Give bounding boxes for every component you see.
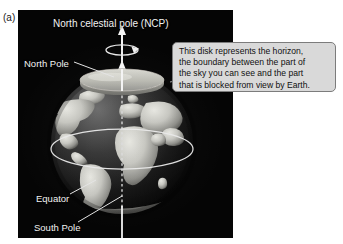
callout-line-4: that is blocked from view by Earth. — [179, 80, 330, 91]
label-equator: Equator — [36, 193, 69, 204]
callout-line-2: the boundary between the part of — [179, 57, 330, 68]
callout-line-1: This disk represents the horizon, — [179, 46, 330, 57]
horizon-callout-box: This disk represents the horizon, the bo… — [172, 42, 336, 92]
horizon-disk — [80, 69, 164, 95]
callout-line-3: the sky you can see and the part — [179, 68, 330, 79]
label-north-celestial-pole: North celestial pole (NCP) — [53, 18, 169, 29]
label-north-pole: North Pole — [24, 58, 69, 69]
label-south-pole: South Pole — [34, 222, 80, 233]
figure-panel-a: (a) — [0, 0, 343, 244]
panel-label: (a) — [3, 12, 15, 23]
